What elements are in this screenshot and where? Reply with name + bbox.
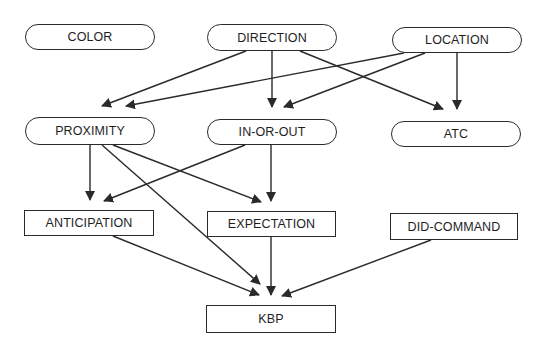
node-label: ANTICIPATION xyxy=(46,216,133,230)
node-label: ATC xyxy=(444,127,468,141)
node-label: KBP xyxy=(258,312,283,326)
node-label: PROXIMITY xyxy=(55,124,125,138)
edge-location-to-proximity-arrow xyxy=(126,53,404,106)
edge-in-or-out-to-anticipation-arrow xyxy=(104,145,245,201)
node-label: IN-OR-OUT xyxy=(239,125,306,139)
node-kbp: KBP xyxy=(206,305,336,333)
node-label: LOCATION xyxy=(425,33,489,47)
diagram-canvas: COLOR DIRECTION LOCATION PROXIMITY IN-OR… xyxy=(0,0,542,355)
node-expectation: EXPECTATION xyxy=(207,211,336,237)
node-label: DIRECTION xyxy=(237,31,307,45)
node-label: DID-COMMAND xyxy=(408,220,501,234)
node-anticipation: ANTICIPATION xyxy=(24,210,154,236)
node-direction: DIRECTION xyxy=(207,24,337,51)
node-label: COLOR xyxy=(68,30,113,44)
edge-anticipation-to-kbp-arrow xyxy=(113,236,259,295)
node-color: COLOR xyxy=(25,24,155,50)
node-label: EXPECTATION xyxy=(228,217,315,231)
node-atc: ATC xyxy=(391,121,521,147)
node-location: LOCATION xyxy=(392,27,522,53)
node-proximity: PROXIMITY xyxy=(25,117,155,145)
node-did-command: DID-COMMAND xyxy=(390,213,518,240)
node-in-or-out: IN-OR-OUT xyxy=(207,119,337,145)
edge-group xyxy=(90,51,457,296)
edge-did-command-to-kbp-arrow xyxy=(282,240,431,296)
edges-layer xyxy=(0,0,542,355)
edge-location-to-in-or-out-arrow xyxy=(284,53,425,107)
edge-direction-to-proximity-arrow xyxy=(102,51,246,106)
